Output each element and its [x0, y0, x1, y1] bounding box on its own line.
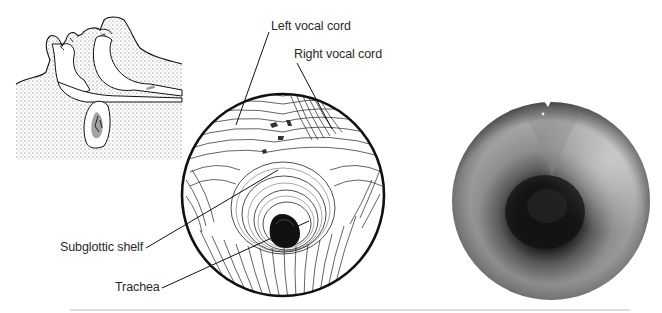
label-subglottic-shelf: Subglottic shelf	[60, 240, 143, 254]
label-trachea: Trachea	[115, 280, 160, 294]
endoscopic-photo	[450, 100, 655, 305]
endoscopic-drawing	[182, 91, 385, 300]
caption-remnant	[70, 309, 630, 311]
label-right-vocal-cord: Right vocal cord	[294, 47, 382, 61]
sagittal-sketch	[16, 17, 182, 160]
label-left-vocal-cord: Left vocal cord	[271, 19, 351, 33]
